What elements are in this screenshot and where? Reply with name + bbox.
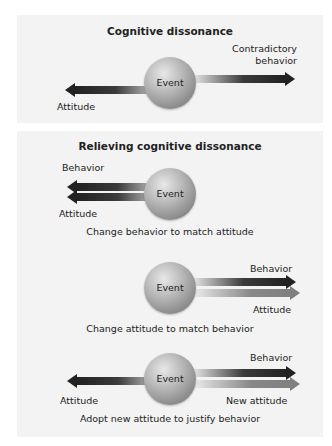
attitude-label: Attitude xyxy=(57,101,95,113)
behavior-arrow-right-icon xyxy=(192,369,296,377)
attitude-label: Attitude xyxy=(253,304,291,316)
event-sphere-icon: Event xyxy=(144,57,196,109)
event-label: Event xyxy=(144,262,196,314)
panel-title: Relieving cognitive dissonance xyxy=(17,140,323,152)
event-sphere-icon: Event xyxy=(144,353,196,405)
event-label: Event xyxy=(144,57,196,109)
new-attitude-arrow-right-icon xyxy=(192,380,300,388)
label-line: behavior xyxy=(207,55,297,67)
new-attitude-label: New attitude xyxy=(226,395,287,407)
contradictory-behavior-label: Contradictory behavior xyxy=(207,43,297,67)
scenario-caption: Adopt new attitude to justify behavior xyxy=(17,413,323,424)
behavior-label: Behavior xyxy=(250,352,292,364)
attitude-label: Attitude xyxy=(60,395,98,407)
scenario-caption: Change attitude to match behavior xyxy=(17,323,323,334)
cognitive-dissonance-panel: Cognitive dissonance Contradictory behav… xyxy=(17,15,323,123)
relieving-dissonance-panel: Relieving cognitive dissonance Behavior … xyxy=(17,131,323,437)
panel-title: Cognitive dissonance xyxy=(17,25,323,37)
event-label: Event xyxy=(144,353,196,405)
event-sphere-icon: Event xyxy=(144,262,196,314)
event-sphere-icon: Event xyxy=(144,168,196,220)
behavior-label: Behavior xyxy=(62,162,104,174)
event-label: Event xyxy=(144,168,196,220)
behavior-arrow-right-icon xyxy=(192,75,295,83)
behavior-label: Behavior xyxy=(250,263,292,275)
attitude-arrow-right-icon xyxy=(192,289,300,297)
scenario-caption: Change behavior to match attitude xyxy=(17,226,323,237)
label-line: Contradictory xyxy=(207,43,297,55)
behavior-arrow-right-icon xyxy=(192,278,296,286)
attitude-label: Attitude xyxy=(59,208,97,220)
